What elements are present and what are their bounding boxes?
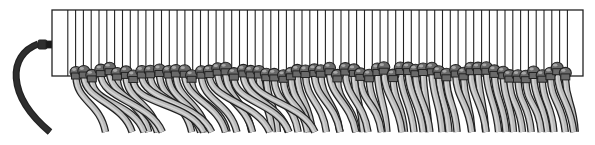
patch-panel-drawing	[0, 0, 595, 145]
patch-panel-illustration	[0, 0, 595, 145]
patch-cables	[70, 62, 575, 132]
cable-connector	[559, 67, 571, 80]
power-cord	[16, 40, 52, 132]
